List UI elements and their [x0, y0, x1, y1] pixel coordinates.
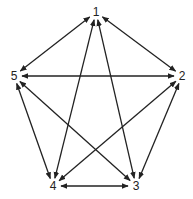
- edge-4-5-arrow: [17, 84, 51, 179]
- edge-1-3-arrow: [98, 20, 134, 178]
- edge-1-4-arrow: [55, 20, 94, 178]
- nodes-group: 1 2 3 4 5: [11, 5, 186, 193]
- node-1-label: 1: [93, 5, 100, 19]
- edge-2-3-arrow: [139, 83, 179, 178]
- graph-diagram: 1 2 3 4 5: [0, 0, 193, 199]
- edge-1-2-arrow: [102, 17, 175, 71]
- node-4-label: 4: [50, 179, 57, 193]
- node-3-label: 3: [133, 179, 140, 193]
- node-5-label: 5: [11, 69, 18, 83]
- node-2-label: 2: [179, 69, 186, 83]
- edge-1-5-arrow: [20, 17, 89, 71]
- edges-group: [17, 17, 179, 186]
